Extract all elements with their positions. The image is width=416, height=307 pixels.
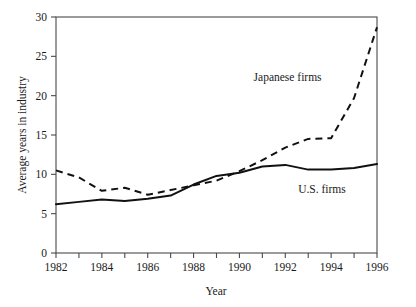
x-tick-label-1992: 1992: [274, 261, 297, 273]
chart-figure: 051015202530 198219841986198819901992199…: [0, 0, 416, 307]
series-label-japanese-firms: Japanese firms: [254, 71, 323, 84]
series-annotations: Japanese firmsU.S. firms: [254, 71, 347, 195]
y-tick-label-5: 5: [41, 208, 47, 220]
x-tick-label-1986: 1986: [136, 261, 159, 273]
x-tick-label-1990: 1990: [228, 261, 251, 273]
y-axis-title: Average years in industry: [16, 76, 29, 194]
y-tick-label-20: 20: [36, 90, 48, 102]
y-tick-label-25: 25: [36, 50, 48, 62]
y-axis-tick-labels: 051015202530: [36, 11, 48, 259]
x-axis-title: Year: [205, 285, 226, 297]
line-chart: 051015202530 198219841986198819901992199…: [0, 0, 416, 307]
x-tick-label-1984: 1984: [90, 261, 113, 273]
x-axis-ticks: [56, 253, 377, 258]
series-group: [56, 27, 377, 204]
x-tick-label-1982: 1982: [45, 261, 68, 273]
series-label-u-s-firms: U.S. firms: [298, 183, 346, 195]
x-tick-label-1994: 1994: [320, 261, 343, 273]
y-tick-label-10: 10: [36, 168, 48, 180]
plot-area-frame: [56, 17, 377, 253]
y-axis-ticks: [51, 17, 56, 253]
y-tick-label-15: 15: [36, 129, 48, 141]
y-tick-label-0: 0: [41, 247, 47, 259]
x-tick-label-1996: 1996: [366, 261, 389, 273]
x-tick-label-1988: 1988: [182, 261, 205, 273]
y-tick-label-30: 30: [36, 11, 48, 23]
x-axis-tick-labels: 19821984198619881990199219941996: [45, 261, 389, 273]
